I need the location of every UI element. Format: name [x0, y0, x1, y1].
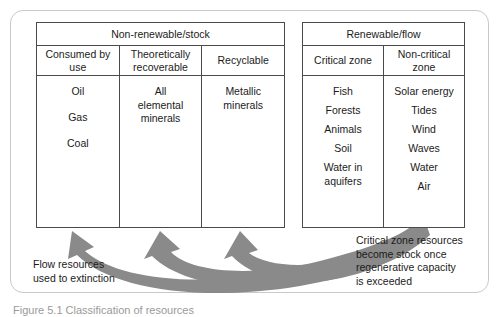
column-header-non-critical-zone: Non-critical zone [384, 46, 464, 75]
list-item: Tides [384, 104, 464, 117]
column-header-critical-zone: Critical zone [303, 46, 384, 75]
table-title-non-renewable: Non-renewable/stock [37, 23, 284, 46]
list-item: Water [384, 161, 464, 174]
figure-classification-of-resources: Non-renewable/stock Consumed by use Theo… [0, 0, 501, 317]
list-item: All elemental minerals [120, 85, 202, 126]
annotation-critical-zone: Critical zone resources become stock onc… [356, 234, 463, 288]
column-consumed-by-use: Oil Gas Coal [37, 76, 120, 227]
list-item: Air [384, 180, 464, 194]
column-critical-zone: Fish Forests Animals Soil Water in aquif… [303, 76, 384, 227]
list-item: Gas [37, 111, 119, 124]
list-item: Oil [37, 85, 119, 98]
column-non-critical-zone: Solar energy Tides Wind Waves Water Air [384, 76, 464, 227]
body-row-non-renewable: Oil Gas Coal All elemental minerals Meta… [37, 76, 284, 227]
list-item: Coal [37, 137, 119, 150]
table-non-renewable-stock: Non-renewable/stock Consumed by use Theo… [36, 22, 285, 228]
column-header-recyclable: Recyclable [202, 46, 284, 75]
list-item: Animals [303, 123, 383, 136]
body-row-renewable: Fish Forests Animals Soil Water in aquif… [303, 76, 464, 227]
figure-caption: Figure 5.1 Classification of resources [13, 303, 194, 317]
annotation-flow-resources: Flow resources used to extinction [33, 258, 115, 285]
list-item: Metallic minerals [202, 85, 284, 112]
list-item: Waves [384, 142, 464, 155]
column-header-row-non-renewable: Consumed by use Theoretically recoverabl… [37, 46, 284, 76]
column-recyclable: Metallic minerals [202, 76, 284, 227]
column-header-row-renewable: Critical zone Non-critical zone [303, 46, 464, 76]
list-item: Water in aquifers [303, 161, 383, 188]
list-item: Wind [384, 123, 464, 136]
column-header-theoretically-recoverable: Theoretically recoverable [120, 46, 203, 75]
list-item: Solar energy [384, 85, 464, 98]
list-item: Forests [303, 104, 383, 117]
column-theoretically-recoverable: All elemental minerals [120, 76, 203, 227]
table-title-renewable: Renewable/flow [303, 23, 464, 46]
column-header-consumed-by-use: Consumed by use [37, 46, 120, 75]
list-item: Soil [303, 142, 383, 155]
table-renewable-flow: Renewable/flow Critical zone Non-critica… [302, 22, 465, 228]
list-item: Fish [303, 85, 383, 98]
